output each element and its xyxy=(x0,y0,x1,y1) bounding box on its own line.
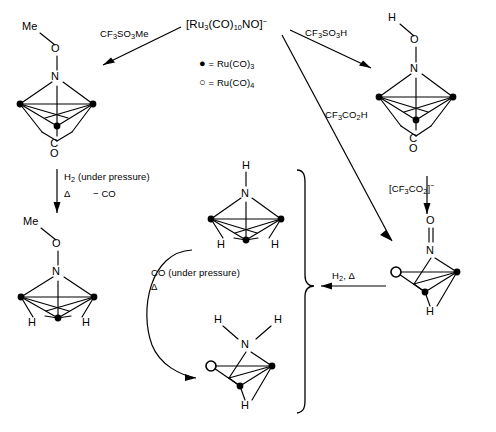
arrow-cf3co2h xyxy=(282,35,392,241)
ru-vertex xyxy=(243,237,250,244)
atom-h-center-top: H xyxy=(242,160,250,171)
atom-h-bottom-center: H xyxy=(241,400,249,411)
atom-co-top-left: CO xyxy=(50,138,59,159)
atom-me-top-left: Me xyxy=(22,21,37,32)
atom-n-top-left: N xyxy=(51,71,59,82)
legend-ru-co4: ○ = Ru(CO)4 xyxy=(199,76,254,90)
ru-co4-vertex xyxy=(206,361,216,371)
ru-vertex xyxy=(413,117,420,124)
ru-vertex xyxy=(422,289,429,296)
atom-o-top-left: O xyxy=(51,43,60,54)
label-cf3co2h: CF3CO2H xyxy=(325,110,368,122)
reagent-charge: − xyxy=(263,17,267,26)
structure-center xyxy=(211,172,281,240)
ru-vertex xyxy=(208,216,215,223)
atom-o-bottom-left: O xyxy=(52,238,61,249)
reagent-co: (CO) xyxy=(208,18,233,30)
atom-n-bottom-center: N xyxy=(241,339,249,350)
open-circle-icon: ○ xyxy=(199,76,206,88)
ru-vertex xyxy=(17,101,24,108)
atom-n-bottom-left: N xyxy=(52,266,60,277)
legend-ru-co4-sub: 4 xyxy=(250,81,254,90)
atom-n-top-right: N xyxy=(410,63,418,74)
legend-ru-co3: ● = Ru(CO)3 xyxy=(199,57,254,71)
reagent-no: NO] xyxy=(242,18,263,30)
legend-ru-co3-label: = Ru(CO) xyxy=(209,58,251,69)
label-cf3so3me: CF3SO3Me xyxy=(100,29,149,41)
ru-vertex xyxy=(54,123,61,130)
label-h2-under-pressure: H2 (under pressure) xyxy=(64,172,150,184)
atom-h-right-bottom-left: H xyxy=(82,317,90,328)
reagent-sub-10: 10 xyxy=(234,23,242,32)
atom-o-top-right: O xyxy=(410,34,419,45)
label-h2-delta: H2, Δ xyxy=(332,271,355,283)
legend-ru-co4-label: = Ru(CO) xyxy=(209,77,251,88)
label-minus-co: − CO xyxy=(93,189,116,200)
ru-vertex xyxy=(90,101,97,108)
atom-h-left-bottom-center: H xyxy=(214,314,222,325)
ru-vertex xyxy=(237,383,244,390)
filled-circle-icon: ● xyxy=(199,57,206,69)
label-delta-left: Δ xyxy=(64,189,70,200)
legend-ru-co3-sub: 3 xyxy=(250,62,254,71)
ru-vertex xyxy=(454,269,461,276)
atom-h-left-bottom-left: H xyxy=(28,317,36,328)
atom-h-top-right: H xyxy=(388,12,396,23)
atom-me-bottom-left: Me xyxy=(23,216,38,227)
reagent-prefix: [Ru xyxy=(186,18,204,30)
label-cf3co2-anion: [CF3CO2]− xyxy=(389,182,435,196)
ru-vertex xyxy=(55,315,62,322)
atom-o-bottom-right: O xyxy=(426,215,435,226)
label-co-under-pressure: CO (under pressure) xyxy=(151,268,240,279)
ru-co4-vertex xyxy=(391,267,401,277)
ru-vertex xyxy=(18,294,25,301)
atom-h-right-bottom-center: H xyxy=(274,314,282,325)
grouping-brace xyxy=(297,170,314,413)
label-cf3so3h: CF3SO3H xyxy=(305,28,347,40)
atom-n-bottom-right: N xyxy=(426,245,434,256)
ru-vertex xyxy=(376,94,383,101)
ru-vertex xyxy=(269,363,276,370)
atom-h-right-center: H xyxy=(271,239,279,250)
reagent-ru3co10no: [Ru3(CO)10NO]− xyxy=(186,18,267,32)
atom-co-top-right: CO xyxy=(409,133,418,154)
ru-vertex xyxy=(278,216,285,223)
ru-vertex xyxy=(450,94,457,101)
atom-h-left-center: H xyxy=(217,239,225,250)
label-delta-curved: Δ xyxy=(151,282,157,293)
atom-n-center: N xyxy=(241,188,249,199)
atom-h-bottom-right: H xyxy=(426,306,434,317)
ru-vertex xyxy=(91,294,98,301)
